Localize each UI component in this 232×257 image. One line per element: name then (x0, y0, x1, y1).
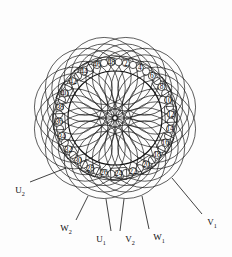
slot-number-label: 2 (124, 59, 128, 68)
terminal-lead-u1 (106, 199, 111, 231)
slot-number-label: 46 (93, 60, 101, 69)
slot-number-label: 22 (129, 167, 137, 176)
slot-conductor (108, 170, 115, 177)
terminal-label-v2: V2 (125, 234, 135, 246)
slot-number-label: 10 (164, 96, 172, 105)
slot-number-label: 30 (74, 156, 82, 165)
slot-number-label: 24 (115, 169, 123, 178)
terminal-lead-u2 (30, 168, 66, 182)
slot-number-label: 8 (160, 82, 164, 91)
slot-conductor (129, 61, 136, 68)
terminal-lead-v2 (120, 199, 124, 231)
terminal-label-group: U2W2U1V2W1V1 (15, 185, 217, 246)
slot-conductor (115, 59, 122, 66)
slot-number-label: 40 (61, 89, 69, 98)
slot-number-label: 44 (80, 67, 88, 76)
slot-number-label: 4 (138, 63, 142, 72)
slot-number-label: 26 (100, 168, 108, 177)
winding-canvas: 2468101214161820222426283032343638404244… (0, 0, 232, 257)
slot-conductor (100, 59, 107, 66)
slot-number-label: 18 (153, 150, 161, 159)
stator-bore-circle (68, 71, 162, 165)
terminal-lead-w2 (76, 196, 88, 220)
slot-number-label: 20 (142, 160, 150, 169)
terminal-label-w2: W2 (60, 223, 72, 235)
terminal-lead-w1 (142, 196, 149, 229)
terminal-lead-v1 (172, 178, 202, 214)
slot-number-label: 38 (56, 103, 64, 112)
stator-core-ring (68, 71, 162, 165)
slot-number-label: 48 (108, 58, 116, 67)
slot-number-label: 42 (69, 77, 77, 86)
terminal-label-u1: U1 (96, 234, 106, 246)
terminal-label-u2: U2 (15, 185, 25, 197)
slot-number-label: 12 (167, 110, 175, 119)
terminal-label-w1: W1 (153, 232, 165, 244)
slot-number-label: 16 (162, 138, 170, 147)
terminal-label-v1: V1 (207, 217, 217, 229)
slot-number-label: 34 (58, 132, 66, 141)
stator-winding-diagram: 2468101214161820222426283032343638404244… (0, 0, 232, 257)
slot-number-label: 36 (55, 117, 63, 126)
slot-number-label: 32 (65, 145, 73, 154)
slot-number-label: 14 (166, 124, 174, 133)
slot-number-label: 6 (150, 71, 154, 80)
slot-number-label: 28 (87, 164, 95, 173)
